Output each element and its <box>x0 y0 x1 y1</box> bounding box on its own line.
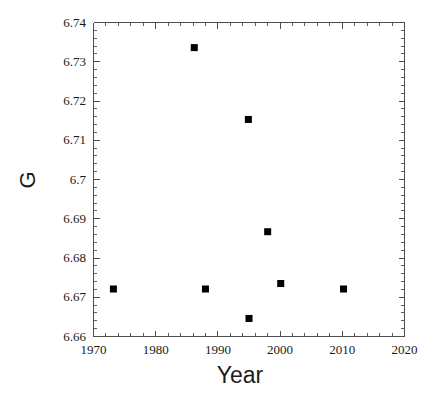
data-point <box>110 286 117 293</box>
y-tick-label: 6.68 <box>46 250 86 266</box>
y-tick-label: 6.71 <box>46 132 86 148</box>
y-tick-label: 6.72 <box>46 93 86 109</box>
x-tick-label: 2000 <box>257 342 303 358</box>
y-tick-label: 6.74 <box>46 15 86 31</box>
y-tick-label: 6.7 <box>46 172 86 188</box>
data-point <box>202 286 209 293</box>
data-point <box>246 315 253 322</box>
x-tick-label: 1990 <box>195 342 241 358</box>
scatter-plot-figure: 6.666.676.686.696.76.716.726.736.74 1970… <box>0 0 431 408</box>
x-axis-label: Year <box>150 362 330 389</box>
x-tick-label: 1970 <box>71 342 117 358</box>
data-point <box>264 228 271 235</box>
x-tick-label: 2010 <box>319 342 365 358</box>
y-tick-label: 6.67 <box>46 289 86 305</box>
x-tick-label: 1980 <box>133 342 179 358</box>
x-tick-label: 2020 <box>382 342 428 358</box>
y-tick-label: 6.69 <box>46 211 86 227</box>
data-point <box>277 280 284 287</box>
data-point <box>340 286 347 293</box>
data-point <box>191 44 198 51</box>
data-point <box>245 116 252 123</box>
y-tick-label: 6.73 <box>46 54 86 70</box>
y-axis-label: G <box>6 160 50 200</box>
